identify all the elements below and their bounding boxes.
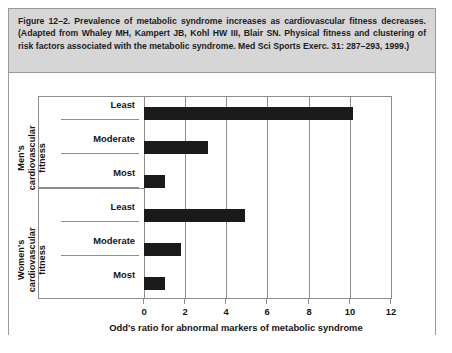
group-label-mens-line2: cardiovascular xyxy=(27,125,37,190)
xtick-mark-0 xyxy=(143,299,144,304)
xtick-mark-8 xyxy=(308,299,309,304)
gridline-4 xyxy=(226,97,227,298)
xtick-label-0: 0 xyxy=(132,306,156,317)
xtick-mark-6 xyxy=(266,299,267,304)
bar-mens-moderate xyxy=(144,141,208,154)
xtick-label-12: 12 xyxy=(379,306,403,317)
gridline-8 xyxy=(309,97,310,298)
bar-mens-least xyxy=(144,107,353,120)
gridline-10 xyxy=(350,97,351,298)
plot-area xyxy=(38,96,392,299)
bar-womens-most xyxy=(144,277,165,290)
bar-womens-moderate xyxy=(144,243,181,256)
x-axis-title: Odd's ratio for abnormal markers of meta… xyxy=(9,322,435,333)
figure-caption-text: Figure 12–2. Prevalence of metabolic syn… xyxy=(18,15,426,52)
xtick-label-10: 10 xyxy=(338,306,362,317)
group-label-mens-line1: Men's xyxy=(16,145,26,171)
xtick-mark-12 xyxy=(390,299,391,304)
gridline-2 xyxy=(185,97,186,298)
bar-mens-most xyxy=(144,175,165,188)
figure-caption-box: Figure 12–2. Prevalence of metabolic syn… xyxy=(9,9,435,73)
xtick-label-4: 4 xyxy=(214,306,238,317)
gridline-6 xyxy=(267,97,268,298)
xtick-mark-4 xyxy=(225,299,226,304)
figure-container: Figure 12–2. Prevalence of metabolic syn… xyxy=(8,8,436,335)
group-label-womens-line2: cardiovascular xyxy=(27,227,37,292)
gridline-0 xyxy=(144,97,145,298)
xtick-mark-10 xyxy=(349,299,350,304)
group-label-womens-line1: Women's xyxy=(16,240,26,280)
group-separator-inner xyxy=(39,188,144,189)
chart-panel: Men's cardiovascular fitness Women's car… xyxy=(9,74,435,335)
xtick-label-8: 8 xyxy=(297,306,321,317)
xtick-label-2: 2 xyxy=(173,306,197,317)
xtick-label-6: 6 xyxy=(255,306,279,317)
xtick-mark-2 xyxy=(184,299,185,304)
bar-womens-least xyxy=(144,209,245,222)
